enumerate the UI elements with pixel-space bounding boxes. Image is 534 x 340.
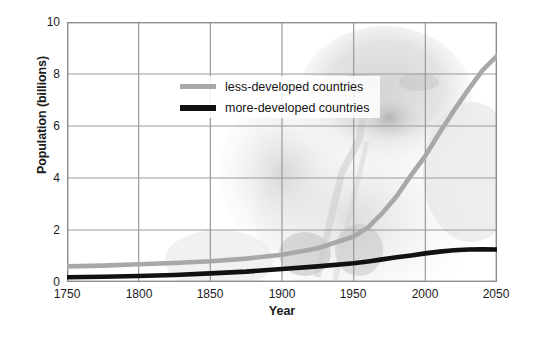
y-tick-label: 10 (20, 15, 60, 29)
x-tick-label: 1900 (252, 287, 312, 301)
legend-item-label: less-developed countries (225, 80, 363, 94)
y-axis-title: Population (billions) (35, 0, 49, 235)
x-tick-label: 1750 (37, 287, 97, 301)
legend-swatch-icon (180, 105, 216, 111)
y-tick-label: 6 (20, 119, 60, 133)
x-tick-label: 1800 (109, 287, 169, 301)
legend-swatch-icon (180, 84, 216, 89)
plot-area (67, 22, 497, 282)
y-tick-label: 4 (20, 171, 60, 185)
x-tick-label: 1850 (180, 287, 240, 301)
x-axis-title: Year (67, 304, 497, 318)
x-tick-label: 1950 (323, 287, 383, 301)
legend: less-developed countries more-developed … (180, 76, 380, 118)
y-tick-label: 2 (20, 223, 60, 237)
legend-item-label: more-developed countries (225, 101, 370, 115)
legend-item-less-developed-countries: less-developed countries (180, 76, 380, 97)
legend-item-more-developed-countries: more-developed countries (180, 97, 380, 118)
x-tick-label: 2000 (395, 287, 455, 301)
population-line-chart: Population (billions) 10 8 6 4 2 0 1750 … (0, 0, 534, 340)
y-tick-label: 8 (20, 67, 60, 81)
x-tick-label: 2050 (466, 287, 526, 301)
